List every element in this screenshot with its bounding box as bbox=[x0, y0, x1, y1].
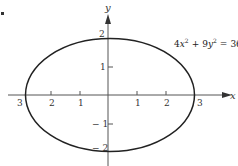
x-tick-label-pos3: 3 bbox=[197, 98, 203, 108]
x-tick-label-neg2: 2 bbox=[49, 98, 55, 108]
x-tick-label-neg3: 3 bbox=[17, 98, 23, 108]
y-axis-label: y bbox=[104, 2, 111, 13]
x-tick-label-pos2: 2 bbox=[164, 98, 170, 108]
x-tick-label-neg1: 1 bbox=[78, 98, 84, 108]
y-tick-label-pos2: 2 bbox=[99, 29, 105, 39]
y-tick-label-pos1: 1 bbox=[100, 62, 106, 72]
figure-marker bbox=[1, 12, 4, 15]
y-tick-label-neg2: − 2 bbox=[92, 143, 108, 153]
equation-label: 4x2+9y2=36 bbox=[174, 37, 238, 49]
x-tick-label-pos1: 1 bbox=[135, 98, 141, 108]
y-tick-label-neg1: − 1 bbox=[92, 119, 108, 129]
y-axis-arrow-icon bbox=[105, 14, 111, 24]
ellipse-diagram: x y 3 2 1 1 2 3 2 1 − 1 − 2 4x2+9y2=36 bbox=[0, 0, 238, 166]
x-axis-label: x bbox=[230, 90, 236, 101]
